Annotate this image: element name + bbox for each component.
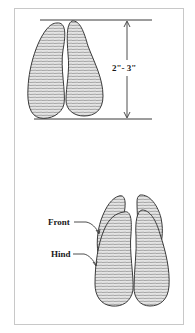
hoof-track-illustration — [0, 0, 195, 333]
top-hoof-track — [28, 21, 103, 118]
right-toe-shape — [66, 21, 103, 116]
hind-label: Hind — [51, 249, 71, 259]
front-label: Front — [48, 217, 70, 227]
overlapping-tracks — [95, 195, 169, 306]
dimension-label: 2"- 3" — [112, 63, 136, 73]
front-leader-line — [74, 222, 100, 234]
hind-leader-line — [73, 254, 97, 266]
hind-right-toe-shape — [134, 210, 169, 306]
left-toe-shape — [28, 23, 65, 118]
